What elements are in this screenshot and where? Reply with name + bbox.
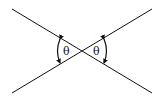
left-theta-label: θ	[63, 45, 70, 58]
right-theta-label: θ	[93, 45, 100, 58]
right-angle-arc-icon	[104, 39, 107, 63]
vertical-angles-diagram: θ θ	[0, 0, 161, 100]
left-angle-arc-icon	[58, 39, 61, 63]
